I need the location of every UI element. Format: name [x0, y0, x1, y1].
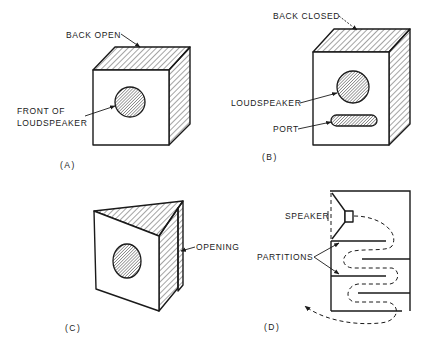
leader-back-closed [339, 16, 357, 30]
label-port: PORT [273, 124, 299, 134]
panel-a: BACK OPEN FRONT OF LOUDSPEAKER (A) [17, 30, 190, 170]
speaker-magnet [345, 211, 353, 222]
loudspeaker-cone [113, 244, 141, 278]
label-back-closed: BACK CLOSED [273, 11, 340, 21]
panel-d: SPEAKER PARTITIONS (D) [257, 191, 410, 332]
label-opening: OPENING [196, 242, 239, 252]
leader-partition-lower [314, 257, 339, 274]
open-back-cabinet [93, 47, 190, 145]
panel-c: OPENING (C) [65, 201, 239, 333]
loudspeaker-enclosures-diagram: BACK OPEN FRONT OF LOUDSPEAKER (A) BACK … [0, 0, 427, 344]
corner-cabinet [94, 201, 183, 311]
label-front-of: FRONT OF [17, 106, 65, 116]
caption-d: (D) [264, 322, 280, 332]
caption-b: (B) [262, 152, 278, 162]
sound-path [305, 216, 398, 324]
speaker-cone [332, 193, 345, 239]
label-loudspeaker: LOUDSPEAKER [17, 118, 87, 128]
leader-partition-upper [314, 243, 339, 257]
bass-port [331, 115, 377, 126]
caption-c: (C) [65, 323, 81, 333]
label-speaker: SPEAKER [285, 211, 329, 221]
label-loudspeaker: LOUDSPEAKER [231, 98, 301, 108]
panel-b: BACK CLOSED LOUDSPEAKER PORT (B) [231, 11, 410, 162]
loudspeaker-cone [115, 87, 145, 117]
cabinet-rear-strip [178, 201, 183, 291]
leader-back-open [121, 34, 140, 47]
label-back-open: BACK OPEN [66, 30, 121, 40]
loudspeaker-cone [337, 71, 369, 103]
label-partitions: PARTITIONS [257, 252, 313, 262]
caption-a: (A) [60, 160, 76, 170]
closed-back-cabinet [313, 29, 410, 145]
